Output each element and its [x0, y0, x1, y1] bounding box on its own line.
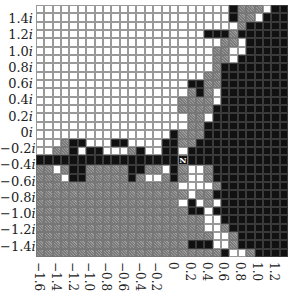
grid-cell — [238, 30, 246, 38]
grid-cell — [44, 215, 52, 223]
grid-cell — [162, 72, 170, 80]
grid-cell — [204, 105, 212, 113]
grid-cell — [53, 147, 61, 155]
grid-cell — [78, 232, 86, 240]
grid-cell — [178, 199, 187, 207]
grid-cell — [213, 122, 221, 130]
grid-cell — [188, 30, 196, 38]
marker-cell: N — [178, 155, 187, 165]
grid-cell — [36, 249, 44, 257]
grid-cell — [255, 63, 263, 71]
grid-cell — [170, 165, 178, 173]
grid-cell — [136, 55, 144, 63]
grid-cell — [128, 232, 136, 240]
grid-cell — [78, 63, 86, 71]
y-tick-label: 1.0i — [0, 43, 33, 58]
grid-cell — [136, 130, 144, 138]
grid-cell — [136, 139, 144, 147]
grid-cell — [145, 13, 153, 21]
grid-cell — [120, 88, 128, 96]
x-tick-label: 0.2 — [183, 262, 197, 281]
grid-cell — [255, 97, 263, 105]
grid-cell — [204, 130, 212, 138]
grid-cell — [145, 5, 153, 13]
grid-cell — [213, 88, 221, 96]
grid-cell — [188, 113, 196, 121]
grid-cell — [44, 190, 52, 198]
grid-cell — [280, 5, 288, 13]
grid-cell — [188, 174, 196, 182]
grid-cell — [271, 47, 279, 55]
grid-cell — [178, 80, 187, 88]
grid-cell — [280, 165, 288, 173]
grid-cell — [36, 207, 44, 215]
grid-cell — [103, 165, 111, 173]
grid-cell — [128, 224, 136, 232]
grid-cell — [204, 97, 212, 105]
grid-cell — [69, 55, 77, 63]
grid-cell — [153, 5, 161, 13]
grid-cell — [271, 22, 279, 30]
grid-cell — [188, 97, 196, 105]
grid-cell — [271, 249, 279, 257]
grid-cell — [128, 113, 136, 121]
grid-cell — [53, 232, 61, 240]
grid-cell — [229, 199, 237, 207]
grid-cell — [145, 147, 153, 155]
grid-cell — [103, 232, 111, 240]
grid-cell — [229, 63, 237, 71]
grid-cell — [271, 105, 279, 113]
grid-cell — [153, 22, 161, 30]
grid-cell — [44, 224, 52, 232]
grid-cell — [120, 147, 128, 155]
grid-cell — [188, 47, 196, 55]
grid-cell — [162, 88, 170, 96]
grid-cell — [204, 47, 212, 55]
grid-cell — [61, 80, 69, 88]
grid-cell — [246, 88, 254, 96]
grid-cell — [86, 190, 94, 198]
grid-cell — [44, 130, 52, 138]
grid-cell — [69, 122, 77, 130]
grid-cell — [95, 55, 103, 63]
grid-cell — [280, 199, 288, 207]
grid-cell — [128, 240, 136, 248]
grid-cell — [120, 55, 128, 63]
grid-cell — [61, 165, 69, 173]
grid-cell — [53, 122, 61, 130]
grid-cell — [95, 47, 103, 55]
grid-cell — [238, 55, 246, 63]
grid-cell — [170, 174, 178, 182]
grid-cell — [271, 130, 279, 138]
grid-cell — [111, 122, 119, 130]
grid-cell — [53, 199, 61, 207]
grid-cell — [136, 240, 144, 248]
grid-cell — [44, 105, 52, 113]
grid-cell — [213, 147, 221, 155]
grid-cell — [69, 63, 77, 71]
grid-cell — [78, 139, 86, 147]
grid-cell — [246, 80, 254, 88]
grid-cell — [136, 215, 144, 223]
grid-cell — [69, 207, 77, 215]
grid-cell — [69, 22, 77, 30]
grid-cell — [153, 105, 161, 113]
grid-cell — [136, 147, 144, 155]
grid-cell — [120, 182, 128, 190]
grid-cell — [238, 130, 246, 138]
grid-cell — [136, 97, 144, 105]
grid-cell — [69, 165, 77, 173]
y-tick-label: 1.2i — [0, 27, 33, 42]
grid-cell — [196, 55, 204, 63]
grid-cell — [170, 190, 178, 198]
grid-cell — [95, 72, 103, 80]
grid-cell — [86, 139, 94, 147]
grid-cell — [170, 240, 178, 248]
grid-cell — [255, 207, 263, 215]
grid-cell — [162, 38, 170, 46]
grid-cell — [238, 232, 246, 240]
grid-cell — [255, 240, 263, 248]
grid-cell — [280, 190, 288, 198]
grid-cell — [280, 182, 288, 190]
grid-cell — [280, 80, 288, 88]
